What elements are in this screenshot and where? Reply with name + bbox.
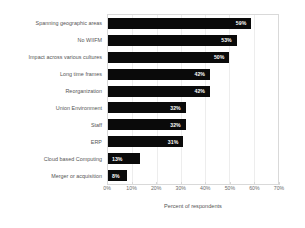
- category-label: ERP: [2, 134, 106, 151]
- bar-row: 59%: [108, 15, 278, 32]
- x-tick-label: 50%: [225, 185, 235, 191]
- x-tick-label: 20%: [151, 185, 161, 191]
- bar-value-label: 50%: [214, 54, 224, 60]
- x-tick-label: 40%: [200, 185, 210, 191]
- gridline: [278, 15, 279, 184]
- x-tick-label: 0%: [103, 185, 111, 191]
- bar: 8%: [108, 170, 127, 181]
- bar: 42%: [108, 86, 210, 97]
- category-label: Union Environment: [2, 99, 106, 116]
- bar-row: 42%: [108, 83, 278, 100]
- bar: 42%: [108, 69, 210, 80]
- category-label: Reorganization: [2, 82, 106, 99]
- bar-value-label: 53%: [221, 37, 231, 43]
- bar: 59%: [108, 18, 251, 29]
- bar-series: 59%53%50%42%42%32%32%31%13%8%: [108, 15, 278, 184]
- category-label: Cloud based Computing: [2, 151, 106, 168]
- bar-row: 50%: [108, 49, 278, 66]
- bar-row: 32%: [108, 100, 278, 117]
- bar-value-label: 31%: [168, 139, 178, 145]
- category-label: Long time frames: [2, 65, 106, 82]
- bar-value-label: 32%: [170, 122, 180, 128]
- plot-area: 59%53%50%42%42%32%32%31%13%8%: [107, 14, 279, 185]
- bar: 50%: [108, 52, 229, 63]
- x-tick-label: 60%: [249, 185, 259, 191]
- x-tick-label: 30%: [176, 185, 186, 191]
- category-label: No WIIFM: [2, 31, 106, 48]
- bar: 13%: [108, 153, 140, 164]
- chart-plot-wrapper: Spanning geographic areasNo WIIFMImpact …: [0, 0, 305, 228]
- bar: 53%: [108, 35, 237, 46]
- bar: 32%: [108, 119, 186, 130]
- bar-row: 53%: [108, 32, 278, 49]
- bar-value-label: 42%: [195, 88, 205, 94]
- bar-row: 32%: [108, 116, 278, 133]
- bar-value-label: 32%: [170, 105, 180, 111]
- category-label: Merger or acquisition: [2, 168, 106, 185]
- bar-row: 42%: [108, 66, 278, 83]
- category-label: Impact across various cultures: [2, 48, 106, 65]
- bar-row: 8%: [108, 167, 278, 184]
- x-tick-label: 10%: [126, 185, 136, 191]
- bar-row: 31%: [108, 133, 278, 150]
- x-axis: 0%10%20%30%40%50%60%70%: [107, 185, 279, 199]
- bar-chart: Spanning geographic areasNo WIIFMImpact …: [0, 0, 305, 228]
- bar: 32%: [108, 102, 186, 113]
- bar-value-label: 59%: [236, 20, 246, 26]
- bar-value-label: 13%: [112, 156, 122, 162]
- bar-value-label: 8%: [112, 173, 120, 179]
- x-axis-title: Percent of respondents: [107, 203, 279, 209]
- category-label: Spanning geographic areas: [2, 14, 106, 31]
- bar-value-label: 42%: [195, 71, 205, 77]
- bar-row: 13%: [108, 150, 278, 167]
- category-axis-labels: Spanning geographic areasNo WIIFMImpact …: [2, 14, 106, 185]
- category-label: Staff: [2, 117, 106, 134]
- bar: 31%: [108, 136, 183, 147]
- x-tick-label: 70%: [274, 185, 284, 191]
